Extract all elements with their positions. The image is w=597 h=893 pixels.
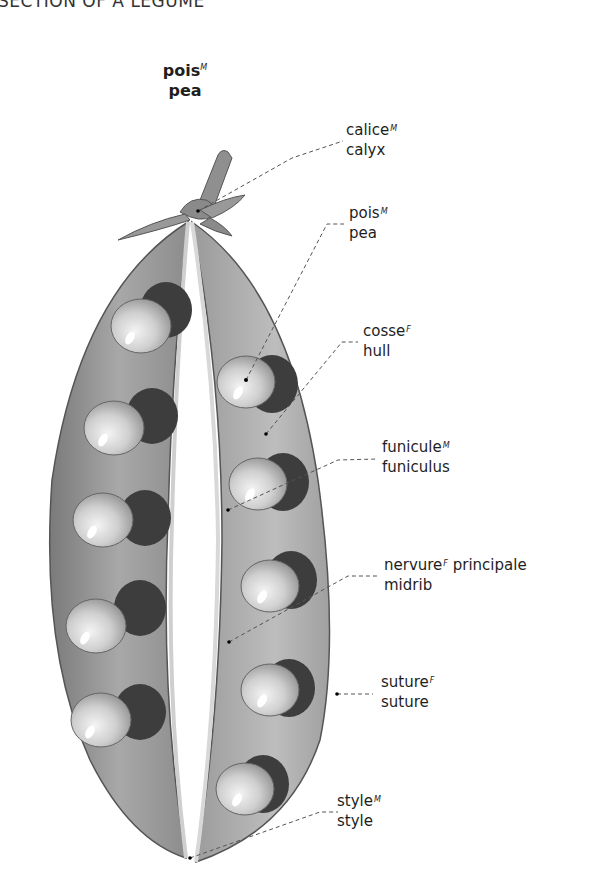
label-en: pea xyxy=(349,223,388,243)
gender-mark: F xyxy=(430,676,435,685)
label-fr: pois xyxy=(349,204,380,222)
label-en: calyx xyxy=(346,140,397,160)
label-fr: style xyxy=(337,792,373,810)
gender-mark: M xyxy=(381,207,388,216)
label-suture: sutureF suture xyxy=(381,672,434,712)
label-pea: poisM pea xyxy=(349,203,388,243)
label-hull: cosseF hull xyxy=(363,321,411,361)
label-style: styleM style xyxy=(337,791,381,831)
label-fr: calice xyxy=(346,121,389,139)
legume-illustration xyxy=(0,0,597,893)
gender-mark: F xyxy=(443,559,448,568)
label-en: suture xyxy=(381,692,434,712)
label-fr: suture xyxy=(381,673,429,691)
gender-mark: M xyxy=(374,795,381,804)
label-funiculus: funiculeM funiculus xyxy=(382,437,450,477)
gender-mark: M xyxy=(443,441,450,450)
label-en: midrib xyxy=(384,575,527,595)
label-fr: funicule xyxy=(382,438,442,456)
label-fr: cosse xyxy=(363,322,405,340)
label-en: hull xyxy=(363,341,411,361)
label-fr-suffix: principale xyxy=(448,556,527,574)
label-midrib: nervureF principale midrib xyxy=(384,555,527,595)
label-en: style xyxy=(337,811,381,831)
label-fr: nervure xyxy=(384,556,442,574)
gender-mark: M xyxy=(390,124,397,133)
label-en: funiculus xyxy=(382,457,450,477)
gender-mark: F xyxy=(406,325,411,334)
label-calyx: caliceM calyx xyxy=(346,120,397,160)
